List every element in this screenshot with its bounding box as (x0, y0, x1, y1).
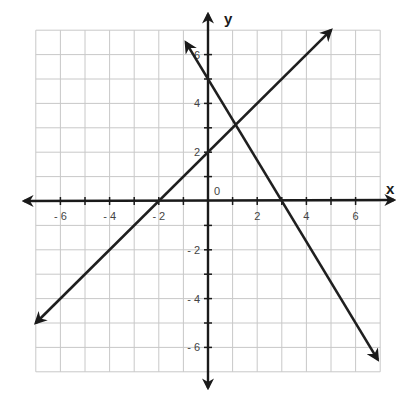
origin-label: 0 (214, 185, 220, 197)
axes (24, 14, 394, 388)
x-tick-label: 6 (353, 210, 359, 222)
x-axis-title: x (386, 180, 395, 197)
coordinate-plane: - 6- 4- 2246- 6- 4- 2246 x y 0 (0, 0, 415, 397)
y-tick-label: - 6 (187, 341, 200, 353)
y-tick-label: 2 (194, 146, 200, 158)
x-tick-label: - 2 (152, 210, 165, 222)
x-tick-label: - 6 (54, 210, 67, 222)
x-tick-label: 4 (303, 210, 309, 222)
y-axis-title: y (224, 10, 233, 27)
y-tick-label: - 4 (187, 293, 200, 305)
x-tick-label: - 4 (103, 210, 116, 222)
y-tick-label: 4 (194, 97, 200, 109)
y-tick-label: - 2 (187, 244, 200, 256)
x-tick-label: 2 (254, 210, 260, 222)
